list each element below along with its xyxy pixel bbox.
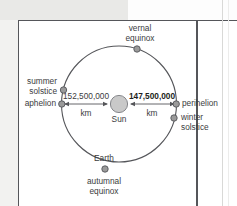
winter-solstice-label-line2: solstice xyxy=(181,122,209,132)
winter-solstice-node xyxy=(171,115,177,121)
vernal-equinox-label-line2: equinox xyxy=(125,33,155,43)
summer-solstice-label-line1: summer xyxy=(27,76,57,86)
perihelion-distance-arrow xyxy=(130,102,175,106)
perihelion-distance-unit: km xyxy=(146,108,157,118)
aphelion-distance-unit: km xyxy=(80,108,91,118)
aphelion-distance-arrow xyxy=(64,102,108,106)
sun-body xyxy=(110,95,127,112)
aphelion-distance-value: 152,500,000 xyxy=(63,91,110,101)
autumnal-equinox-label-line2: equinox xyxy=(89,186,119,196)
autumnal-equinox-node xyxy=(102,166,108,172)
aphelion-label: aphelion xyxy=(25,98,57,108)
earth-label: Earth xyxy=(94,153,114,163)
vernal-equinox-label-line1: vernal xyxy=(129,23,152,33)
perihelion-node xyxy=(173,101,179,107)
earth-orbit-diagram: Sun vernal equinox summer solstice aphel… xyxy=(0,0,237,206)
vernal-equinox-node xyxy=(134,46,140,52)
winter-solstice-label-line1: winter xyxy=(180,112,203,122)
perihelion-distance-value: 147,500,000 xyxy=(129,91,176,101)
perihelion-label: perihelion xyxy=(182,98,218,108)
summer-solstice-label-line2: solstice xyxy=(29,86,57,96)
autumnal-equinox-label-line1: autumnal xyxy=(87,176,121,186)
sun-label: Sun xyxy=(112,114,127,124)
scanned-page: Sun vernal equinox summer solstice aphel… xyxy=(0,0,237,206)
aphelion-node xyxy=(59,101,65,107)
